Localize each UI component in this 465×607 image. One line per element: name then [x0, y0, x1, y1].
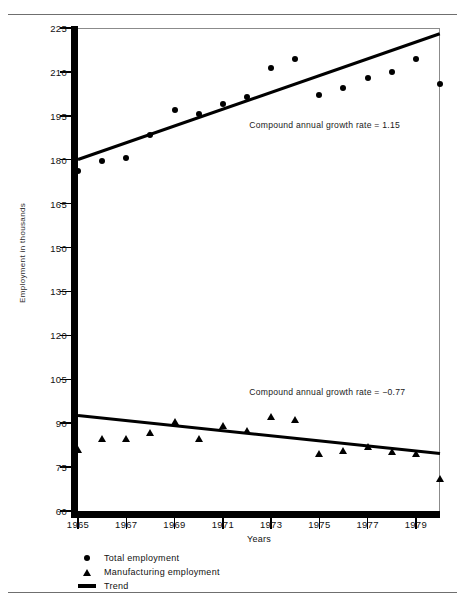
legend: Total employment Manufacturing employmen… [82, 551, 220, 593]
triangle-marker [267, 413, 275, 420]
dot-marker [413, 56, 419, 62]
dot-marker [268, 65, 274, 71]
x-axis-cap [71, 511, 78, 518]
legend-item-manufacturing-employment: Manufacturing employment [82, 565, 220, 579]
y-tick-label: 135 [50, 286, 67, 297]
x-tick-label: 1967 [115, 519, 137, 530]
legend-label: Total employment [104, 553, 179, 563]
dot-marker [316, 92, 322, 98]
legend-label: Manufacturing employment [104, 567, 220, 577]
y-tick-label: 165 [50, 198, 67, 209]
plot-frame-top [78, 28, 440, 29]
triangle-marker [195, 435, 203, 442]
trend-line [78, 32, 441, 161]
dot-marker [99, 158, 105, 164]
y-axis-cap [71, 26, 78, 33]
triangle-marker [315, 450, 323, 457]
top-divider-rule [8, 14, 457, 15]
dot-marker [123, 155, 129, 161]
dot-marker [389, 69, 395, 75]
triangle-marker-icon [82, 569, 104, 576]
y-axis-bar [71, 26, 78, 513]
dot-marker [365, 75, 371, 81]
y-tick-label: 75 [56, 462, 67, 473]
total-growth-annotation: Compound annual growth rate = 1.15 [249, 120, 400, 130]
legend-item-total-employment: Total employment [82, 551, 220, 565]
x-axis-title: Years [247, 534, 271, 544]
triangle-marker [339, 447, 347, 454]
y-tick-label: 210 [50, 66, 67, 77]
x-tick-label: 1977 [356, 519, 378, 530]
bottom-divider-rule [8, 592, 457, 593]
legend-label: Trend [104, 581, 129, 591]
manufacturing-growth-annotation: Compound annual growth rate = −0.77 [249, 387, 405, 397]
x-tick-label: 1975 [308, 519, 330, 530]
x-tick-label: 1971 [212, 519, 234, 530]
dot-marker [340, 85, 346, 91]
dot-marker-icon [82, 555, 104, 561]
triangle-marker [74, 445, 82, 452]
plot-frame-right [439, 28, 440, 511]
y-tick-label: 225 [50, 23, 67, 34]
trend-line [78, 414, 440, 455]
dot-marker [75, 168, 81, 174]
y-axis-title: Employment in thousands [18, 203, 27, 303]
x-axis-bar [71, 511, 440, 518]
dot-marker [437, 81, 443, 87]
legend-item-trend: Trend [82, 579, 220, 593]
line-marker-icon [82, 584, 104, 588]
triangle-marker [291, 416, 299, 423]
y-tick-label: 180 [50, 154, 67, 165]
y-tick-label: 60 [56, 506, 67, 517]
triangle-marker [98, 435, 106, 442]
x-tick-label: 1979 [405, 519, 427, 530]
triangle-marker [146, 429, 154, 436]
truncated-caption [120, 0, 380, 4]
plot-area: 225210195180165150135120105907560 196519… [78, 28, 440, 511]
y-tick-label: 120 [50, 330, 67, 341]
y-tick-label: 105 [50, 374, 67, 385]
y-tick-label: 90 [56, 418, 67, 429]
dot-marker [292, 56, 298, 62]
figure-page: Employment in thousands 2252101951801651… [0, 0, 465, 607]
x-tick-label: 1969 [163, 519, 185, 530]
triangle-marker [436, 475, 444, 482]
x-tick-label: 1973 [260, 519, 282, 530]
y-tick-label: 195 [50, 110, 67, 121]
dot-marker [172, 107, 178, 113]
x-tick-label: 1965 [67, 519, 89, 530]
y-tick-label: 150 [50, 242, 67, 253]
triangle-marker [122, 435, 130, 442]
